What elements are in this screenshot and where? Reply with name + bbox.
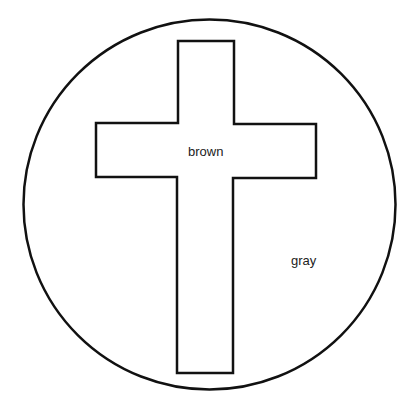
outer-circle <box>24 20 396 390</box>
cross-color-label: brown <box>188 145 223 158</box>
cross-shape <box>96 41 316 373</box>
diagram-figure <box>0 0 417 413</box>
background-color-label: gray <box>291 254 316 267</box>
coloring-diagram: brown gray <box>0 0 417 413</box>
